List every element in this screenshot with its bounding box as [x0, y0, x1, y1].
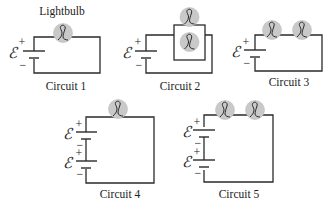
lightbulb-icon	[54, 24, 73, 43]
plus-sign: +	[19, 35, 26, 49]
minus-sign: −	[244, 56, 251, 70]
circuit-1: Lightbulb + ℰ − Circuit 1	[8, 5, 101, 92]
plus-sign: +	[76, 146, 83, 160]
plus-sign: +	[194, 145, 201, 159]
circuit-3: + ℰ − Circuit 3	[231, 21, 323, 89]
circuit-4-wire	[86, 117, 154, 183]
lightbulb-icon	[216, 101, 235, 120]
circuits-diagram: Lightbulb + ℰ − Circuit 1 + ℰ − Circuit …	[0, 0, 327, 207]
circuit-2-wire-return	[146, 35, 212, 73]
minus-sign: −	[195, 166, 202, 180]
emf-symbol: ℰ	[122, 45, 133, 61]
plus-sign: +	[243, 35, 250, 49]
circuit-1-label: Circuit 1	[46, 80, 87, 92]
lightbulb-icon	[293, 21, 312, 40]
lightbulb-icon	[109, 100, 128, 119]
circuit-5: + ℰ − + ℰ − Circuit 5	[182, 101, 274, 201]
lightbulb-label: Lightbulb	[39, 5, 85, 18]
circuit-1-wire	[34, 37, 100, 73]
emf-symbol: ℰ	[8, 45, 19, 61]
circuit-4-label: Circuit 4	[100, 188, 141, 200]
lightbulb-icon	[180, 33, 199, 52]
circuit-3-wire	[255, 35, 322, 71]
plus-sign: +	[194, 115, 201, 129]
emf-symbol: ℰ	[182, 124, 193, 140]
circuit-5-label: Circuit 5	[219, 188, 260, 200]
minus-sign: −	[77, 167, 84, 181]
emf-symbol: ℰ	[63, 155, 74, 171]
plus-sign: +	[135, 35, 142, 49]
lightbulb-icon	[246, 101, 265, 120]
minus-sign: −	[20, 58, 27, 72]
emf-symbol: ℰ	[182, 154, 193, 170]
circuit-4: + ℰ − + ℰ − Circuit 4	[63, 100, 155, 201]
minus-sign: −	[136, 58, 143, 72]
emf-symbol: ℰ	[231, 44, 242, 60]
circuit-5-wire	[204, 115, 273, 182]
emf-symbol: ℰ	[63, 126, 74, 142]
circuit-2-wire-left-top	[146, 35, 174, 51]
circuit-2-label: Circuit 2	[160, 80, 201, 92]
lightbulb-icon	[180, 8, 199, 27]
lightbulb-icon	[263, 21, 282, 40]
circuit-2: + ℰ − Circuit 2	[122, 8, 213, 93]
circuit-3-label: Circuit 3	[269, 76, 310, 88]
plus-sign: +	[76, 117, 83, 131]
